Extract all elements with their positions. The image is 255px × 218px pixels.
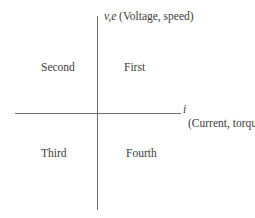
vertical-axis-label: v,e (Voltage, speed) (104, 10, 194, 23)
vertical-axis-symbol: v,e (104, 10, 116, 22)
horizontal-axis-description: (Current, torque) (188, 117, 255, 130)
quadrant-first-label: First (124, 61, 145, 74)
vertical-axis-description: (Voltage, speed) (119, 10, 194, 22)
quadrant-fourth-label: Fourth (126, 147, 157, 160)
quadrant-second-label: Second (41, 61, 75, 74)
horizontal-axis-symbol: i (183, 103, 186, 116)
quadrant-third-label: Third (41, 147, 67, 160)
horizontal-axis-line (15, 113, 181, 114)
